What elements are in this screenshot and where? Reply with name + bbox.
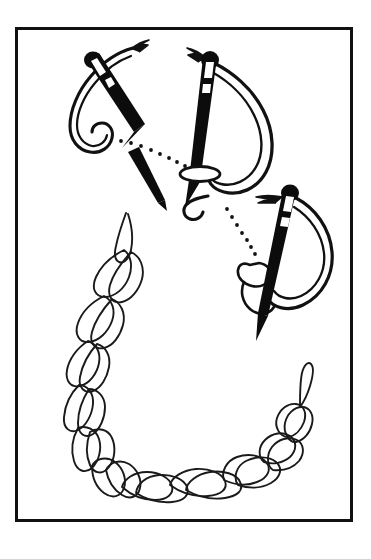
chain-tip-end bbox=[300, 363, 313, 407]
needle-step-one bbox=[70, 40, 149, 152]
chain-link bbox=[268, 438, 303, 470]
needle-step-two bbox=[184, 48, 272, 220]
needle-tip-fragment-left bbox=[128, 147, 167, 211]
thread-tail-step-one bbox=[131, 40, 149, 52]
chain-link bbox=[236, 457, 281, 487]
chain-link bbox=[276, 404, 305, 437]
needle-point-step-two bbox=[185, 180, 200, 207]
stitch-hole-mark bbox=[180, 167, 220, 182]
thread-loop-step-two-inner bbox=[209, 72, 262, 185]
needle-step-three bbox=[238, 185, 332, 342]
needle-body-step-two bbox=[189, 58, 217, 182]
chain-link bbox=[136, 475, 188, 502]
thread-tail-step-three bbox=[256, 196, 283, 204]
illustration-page bbox=[0, 0, 371, 559]
dotted-guide-two bbox=[225, 207, 257, 256]
chain-link bbox=[170, 469, 226, 496]
needle-point-step-three bbox=[256, 313, 268, 341]
needle-eye-step-two-lower bbox=[202, 84, 211, 93]
chain-link bbox=[122, 472, 172, 500]
stitch-artwork bbox=[0, 0, 371, 559]
